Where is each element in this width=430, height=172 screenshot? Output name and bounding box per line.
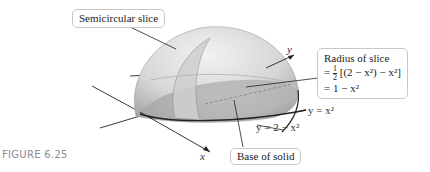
callout-radius-of-slice: Radius of slice = 12 [(2 − x²) − x²] = 1… xyxy=(317,48,408,99)
leader-slice xyxy=(128,26,176,49)
radius-line1: = 12 [(2 − x²) − x²] xyxy=(324,65,401,82)
radius-line2: = 1 − x² xyxy=(324,82,401,95)
callout-slice-text: Semicircular slice xyxy=(79,12,158,24)
x-axis-label: x xyxy=(200,150,205,162)
axis-stub xyxy=(100,116,140,128)
y-axis-label: y xyxy=(287,43,292,55)
fraction-half: 12 xyxy=(333,65,337,82)
x-axis-back xyxy=(92,86,140,112)
callout-base-of-solid: Base of solid xyxy=(230,148,301,165)
callout-base-text: Base of solid xyxy=(237,150,294,162)
figure-label: FIGURE 6.25 xyxy=(2,149,68,160)
callout-semicircular-slice: Semicircular slice xyxy=(72,9,165,28)
curve-label-y-2-x2: y = 2 − x² xyxy=(256,121,299,133)
curve-label-y-x2: y = x² xyxy=(308,104,334,116)
